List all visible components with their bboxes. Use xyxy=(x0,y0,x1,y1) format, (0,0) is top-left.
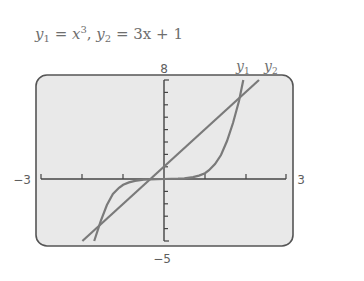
y-max-label: 8 xyxy=(160,62,168,76)
x-max-label: 3 xyxy=(297,173,305,187)
y1-label-sub: 1 xyxy=(244,66,250,76)
y-min-label: −5 xyxy=(153,252,171,266)
curve-label-y1: y 1 xyxy=(235,58,250,76)
curve-label-y2: y 2 xyxy=(263,58,278,76)
graph-figure: 8 −5 −3 3 y 1 y 2 xyxy=(0,0,364,281)
y2-label-sub: 2 xyxy=(272,66,278,76)
x-min-label: −3 xyxy=(13,173,31,187)
